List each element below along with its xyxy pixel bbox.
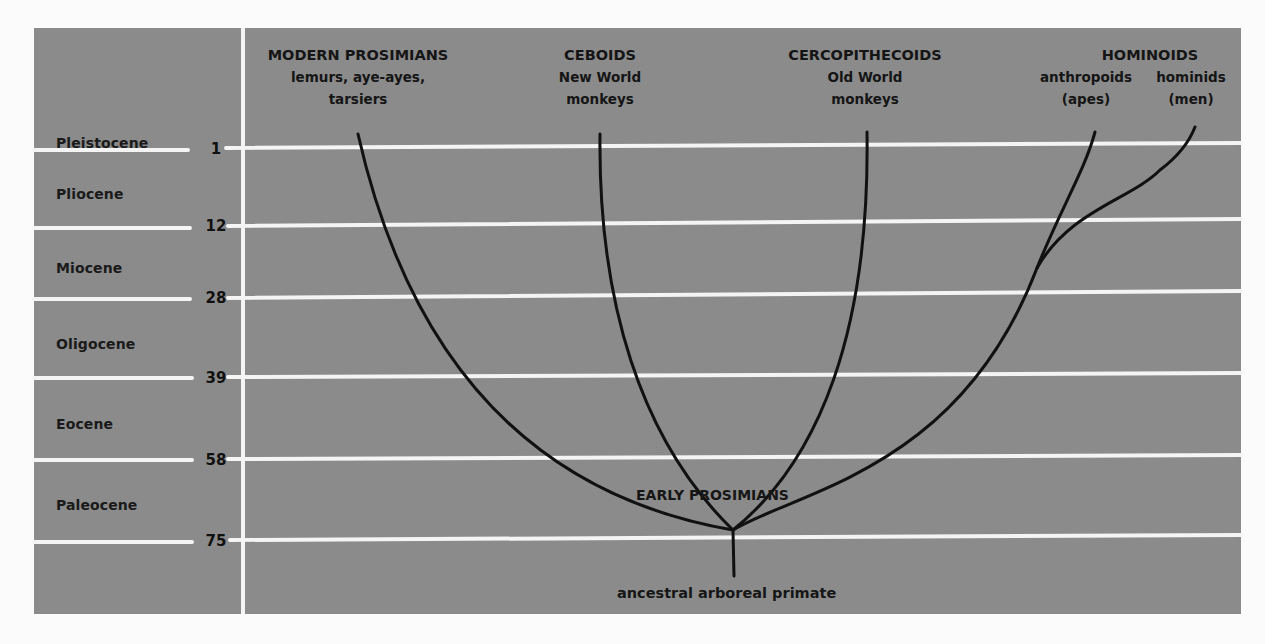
boundary-label-39: 39 bbox=[196, 369, 236, 387]
boundary-label-28: 28 bbox=[196, 289, 236, 307]
epoch-label-oligocene: Oligocene bbox=[56, 336, 135, 352]
group-title: CEBOIDS bbox=[540, 44, 660, 66]
boundary-label-58: 58 bbox=[196, 451, 236, 469]
epoch-label-miocene: Miocene bbox=[56, 260, 122, 276]
subgroup-hominids: hominids (men) bbox=[1146, 66, 1236, 110]
group-modern-prosimians: MODERN PROSIMIANS lemurs, aye-ayes, tars… bbox=[244, 44, 472, 110]
node-label-early-prosimians: EARLY PROSIMIANS bbox=[636, 487, 789, 503]
boundary-label-12: 12 bbox=[196, 217, 236, 235]
boundary-label-1: 1 bbox=[196, 140, 236, 158]
group-subtitle: Old World bbox=[770, 66, 960, 88]
epoch-boundaries bbox=[34, 143, 1241, 542]
group-title: HOMINOIDS bbox=[1075, 44, 1225, 66]
group-subtitle: (men) bbox=[1146, 88, 1236, 110]
boundary-label-75: 75 bbox=[196, 532, 236, 550]
epoch-label-paleocene: Paleocene bbox=[56, 497, 137, 513]
branch-ceboids bbox=[600, 134, 733, 530]
group-hominoids: HOMINOIDS bbox=[1075, 44, 1225, 66]
group-subtitle: anthropoids bbox=[1026, 66, 1146, 88]
branch-cercopithecoids bbox=[733, 132, 867, 530]
group-title: MODERN PROSIMIANS bbox=[244, 44, 472, 66]
branch-root bbox=[733, 530, 734, 576]
group-cercopithecoids: CERCOPITHECOIDS Old World monkeys bbox=[770, 44, 960, 110]
branch-hominids bbox=[1037, 127, 1195, 268]
branch-prosimians bbox=[358, 134, 733, 530]
group-subtitle: New World bbox=[540, 66, 660, 88]
group-subtitle: monkeys bbox=[540, 88, 660, 110]
group-subtitle: hominids bbox=[1146, 66, 1236, 88]
branch-apes bbox=[1037, 132, 1095, 268]
subgroup-anthropoids: anthropoids (apes) bbox=[1026, 66, 1146, 110]
group-title: CERCOPITHECOIDS bbox=[770, 44, 960, 66]
group-subtitle: monkeys bbox=[770, 88, 960, 110]
root-label: ancestral arboreal primate bbox=[617, 585, 836, 601]
group-subtitle: tarsiers bbox=[244, 88, 472, 110]
group-ceboids: CEBOIDS New World monkeys bbox=[540, 44, 660, 110]
epoch-label-pleistocene: Pleistocene bbox=[56, 135, 148, 151]
epoch-label-pliocene: Pliocene bbox=[56, 186, 124, 202]
group-subtitle: lemurs, aye-ayes, bbox=[244, 66, 472, 88]
group-subtitle: (apes) bbox=[1026, 88, 1146, 110]
epoch-label-eocene: Eocene bbox=[56, 416, 113, 432]
